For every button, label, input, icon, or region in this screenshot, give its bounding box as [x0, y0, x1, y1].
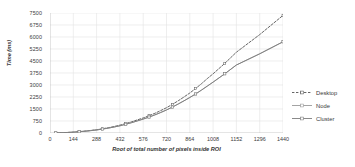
legend-marker [301, 91, 304, 94]
x-axis-tick-label: 720 [162, 136, 171, 142]
x-axis-tick-label: 144 [69, 136, 78, 142]
legend-marker [301, 117, 304, 120]
legend-item-cluster[interactable]: Cluster [292, 112, 352, 125]
x-axis-tick-label: 1008 [207, 136, 219, 142]
y-axis-tick-label: 5250 [30, 46, 42, 52]
y-axis-tick-label: 6750 [30, 22, 42, 28]
x-axis-title: Root of total number of pixels inside RO… [50, 146, 283, 152]
x-axis-tick-labels: 01442884325767208641008115212961440 [50, 136, 283, 146]
legend-label: Node [316, 103, 330, 109]
series-marker-cluster [78, 131, 80, 133]
series-marker-cluster [282, 41, 283, 43]
legend-label: Desktop [316, 90, 337, 96]
y-axis-tick-labels: 0750150022503000375045005250600067507500 [0, 13, 46, 133]
x-axis-tick-label: 1440 [277, 136, 289, 142]
legend-swatch-node [292, 101, 312, 110]
y-axis-tick-label: 7500 [30, 10, 42, 16]
series-lines [55, 14, 283, 133]
x-axis-tick-label: 1152 [231, 136, 243, 142]
x-axis-tick-label: 1296 [254, 136, 266, 142]
series-marker-desktop [224, 62, 226, 64]
chart-legend: DesktopNodeCluster [292, 86, 352, 125]
legend-swatch-cluster [292, 114, 312, 123]
legend-item-desktop[interactable]: Desktop [292, 86, 352, 99]
y-axis-tick-label: 0 [39, 130, 42, 136]
x-axis-tick-label: 864 [185, 136, 194, 142]
series-marker-desktop [282, 14, 283, 16]
grid-lines [50, 13, 283, 133]
series-line-desktop [56, 15, 283, 132]
series-marker-cluster [195, 93, 197, 95]
x-axis-tick-label: 576 [139, 136, 148, 142]
y-axis-tick-label: 3750 [30, 70, 42, 76]
series-marker-cluster [101, 128, 103, 130]
legend-marker [301, 104, 304, 107]
y-axis-tick-label: 4500 [30, 58, 42, 64]
y-axis-tick-label: 2250 [30, 94, 42, 100]
legend-label: Cluster [316, 116, 334, 122]
y-axis-tick-label: 1500 [30, 106, 42, 112]
series-marker-cluster [55, 132, 57, 133]
x-axis-tick-label: 432 [115, 136, 124, 142]
series-line-node [56, 42, 283, 133]
plot-area [50, 13, 283, 133]
series-marker-cluster [125, 123, 127, 125]
series-marker-cluster [171, 106, 173, 108]
series-marker-desktop [195, 88, 197, 90]
legend-item-node[interactable]: Node [292, 99, 352, 112]
plot-svg [50, 13, 283, 133]
x-axis-tick-label: 0 [49, 136, 52, 142]
x-axis-tick-label: 288 [92, 136, 101, 142]
series-line-cluster [56, 42, 283, 133]
series-marker-desktop [171, 103, 173, 105]
y-axis-tick-label: 6000 [30, 34, 42, 40]
legend-swatch-desktop [292, 88, 312, 97]
series-marker-cluster [224, 73, 226, 75]
y-axis-tick-label: 750 [33, 118, 42, 124]
series-marker-cluster [148, 116, 150, 118]
y-axis-tick-label: 3000 [30, 82, 42, 88]
line-chart: Time (ms) 075015002250300037504500525060… [0, 0, 355, 167]
